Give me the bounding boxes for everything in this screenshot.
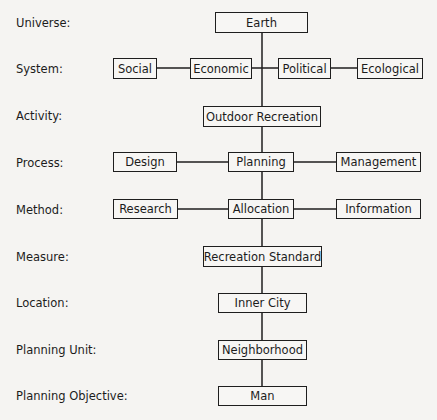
node-neighborhood: Neighborhood <box>218 340 307 360</box>
level-label-measure: Measure: <box>16 250 69 264</box>
level-label-location: Location: <box>16 296 69 310</box>
node-earth: Earth <box>215 12 308 33</box>
node-information: Information <box>336 199 421 219</box>
level-label-planning-unit: Planning Unit: <box>16 343 96 357</box>
node-inner-city: Inner City <box>218 293 307 313</box>
node-allocation: Allocation <box>228 199 294 219</box>
node-man: Man <box>218 386 307 406</box>
hierarchy-diagram: Universe: System: Activity: Process: Met… <box>0 0 437 420</box>
node-recreation-standard: Recreation Standard <box>203 246 322 267</box>
node-outdoor-recreation: Outdoor Recreation <box>203 106 321 127</box>
level-label-planning-objective: Planning Objective: <box>16 389 128 403</box>
node-research: Research <box>113 199 178 219</box>
level-label-universe: Universe: <box>16 16 70 30</box>
node-economic: Economic <box>190 58 252 79</box>
node-management: Management <box>336 152 421 172</box>
level-label-method: Method: <box>16 203 63 217</box>
level-label-activity: Activity: <box>16 109 62 123</box>
level-label-system: System: <box>16 62 63 76</box>
node-social: Social <box>113 58 157 79</box>
node-planning: Planning <box>228 152 294 172</box>
node-political: Political <box>278 58 331 79</box>
node-ecological: Ecological <box>357 58 423 79</box>
node-design: Design <box>113 152 177 172</box>
level-label-process: Process: <box>16 156 64 170</box>
